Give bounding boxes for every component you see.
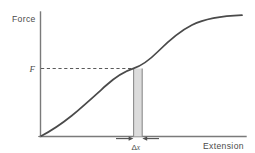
delta-x-variable: x: [136, 143, 141, 152]
graph-canvas: Force Extension F Δx: [0, 0, 255, 153]
extension-strip-fill: [134, 69, 143, 137]
y-axis-label: Force: [12, 14, 36, 24]
force-value-label: F: [29, 64, 36, 74]
force-extension-figure: Force Extension F Δx: [0, 0, 255, 153]
delta-x-label: Δx: [132, 143, 141, 152]
x-axis-label: Extension: [203, 141, 244, 151]
